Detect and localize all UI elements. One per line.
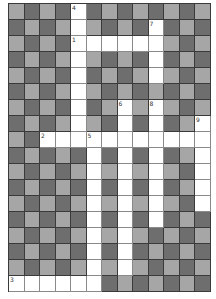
answer-cell[interactable] xyxy=(71,84,87,100)
answer-cell[interactable] xyxy=(71,68,87,84)
answer-cell[interactable] xyxy=(71,20,87,36)
answer-cell[interactable] xyxy=(149,132,165,148)
blocked-cell xyxy=(102,84,118,100)
blocked-cell xyxy=(25,260,41,276)
blocked-cell xyxy=(164,100,180,116)
blocked-cell xyxy=(164,212,180,228)
answer-cell[interactable]: 4 xyxy=(71,4,87,20)
answer-cell[interactable]: 9 xyxy=(195,116,211,132)
blocked-cell xyxy=(9,228,25,244)
blocked-cell xyxy=(133,212,149,228)
answer-cell[interactable]: 3 xyxy=(9,276,25,292)
answer-cell[interactable] xyxy=(25,276,41,292)
blocked-cell xyxy=(133,276,149,292)
answer-cell[interactable] xyxy=(118,228,134,244)
blocked-cell xyxy=(56,4,72,20)
blocked-cell xyxy=(9,100,25,116)
answer-cell[interactable] xyxy=(56,276,72,292)
blocked-cell xyxy=(71,244,87,260)
blocked-cell xyxy=(40,116,56,132)
blocked-cell xyxy=(9,68,25,84)
answer-cell[interactable] xyxy=(195,148,211,164)
blocked-cell xyxy=(25,228,41,244)
answer-cell[interactable] xyxy=(149,148,165,164)
answer-cell[interactable]: 1 xyxy=(71,36,87,52)
answer-cell[interactable] xyxy=(149,212,165,228)
answer-cell[interactable] xyxy=(87,180,103,196)
answer-cell[interactable] xyxy=(118,148,134,164)
answer-cell[interactable]: 6 xyxy=(118,100,134,116)
answer-cell[interactable] xyxy=(149,52,165,68)
blocked-cell xyxy=(180,100,196,116)
answer-cell[interactable] xyxy=(118,164,134,180)
answer-cell[interactable] xyxy=(195,164,211,180)
answer-cell[interactable] xyxy=(71,132,87,148)
answer-cell[interactable] xyxy=(87,260,103,276)
blocked-cell xyxy=(102,68,118,84)
answer-cell[interactable] xyxy=(71,116,87,132)
answer-cell[interactable] xyxy=(164,132,180,148)
answer-cell[interactable] xyxy=(40,276,56,292)
answer-cell[interactable] xyxy=(195,196,211,212)
answer-cell[interactable] xyxy=(87,164,103,180)
answer-cell[interactable]: 2 xyxy=(40,132,56,148)
answer-cell[interactable] xyxy=(149,68,165,84)
blocked-cell xyxy=(133,52,149,68)
blocked-cell xyxy=(87,100,103,116)
blocked-cell xyxy=(87,52,103,68)
answer-cell[interactable] xyxy=(118,212,134,228)
answer-cell[interactable] xyxy=(118,196,134,212)
answer-cell[interactable] xyxy=(87,276,103,292)
answer-cell[interactable] xyxy=(87,228,103,244)
answer-cell[interactable] xyxy=(149,196,165,212)
blocked-cell xyxy=(40,260,56,276)
answer-cell[interactable] xyxy=(195,132,211,148)
blocked-cell xyxy=(149,84,165,100)
blocked-cell xyxy=(71,212,87,228)
answer-cell[interactable] xyxy=(133,132,149,148)
blocked-cell xyxy=(133,260,149,276)
blocked-cell xyxy=(102,180,118,196)
answer-cell[interactable] xyxy=(71,52,87,68)
blocked-cell xyxy=(9,196,25,212)
blocked-cell xyxy=(133,84,149,100)
answer-cell[interactable]: 5 xyxy=(87,132,103,148)
answer-cell[interactable] xyxy=(87,196,103,212)
blocked-cell xyxy=(25,52,41,68)
blocked-cell xyxy=(180,276,196,292)
blocked-cell xyxy=(180,164,196,180)
answer-cell[interactable] xyxy=(118,260,134,276)
blocked-cell xyxy=(87,4,103,20)
answer-cell[interactable] xyxy=(149,164,165,180)
blocked-cell xyxy=(102,244,118,260)
answer-cell[interactable] xyxy=(118,244,134,260)
answer-cell[interactable] xyxy=(149,180,165,196)
blocked-cell xyxy=(195,36,211,52)
answer-cell[interactable] xyxy=(133,36,149,52)
answer-cell[interactable] xyxy=(87,36,103,52)
answer-cell[interactable] xyxy=(149,116,165,132)
clue-number: 6 xyxy=(119,100,123,107)
answer-cell[interactable] xyxy=(102,132,118,148)
answer-cell[interactable] xyxy=(87,244,103,260)
answer-cell[interactable] xyxy=(195,180,211,196)
answer-cell[interactable] xyxy=(71,100,87,116)
answer-cell[interactable] xyxy=(118,116,134,132)
answer-cell[interactable]: 7 xyxy=(149,20,165,36)
blocked-cell xyxy=(102,4,118,20)
blocked-cell xyxy=(195,4,211,20)
answer-cell[interactable] xyxy=(87,148,103,164)
blocked-cell xyxy=(25,116,41,132)
answer-cell[interactable] xyxy=(118,132,134,148)
answer-cell[interactable] xyxy=(102,36,118,52)
answer-cell[interactable] xyxy=(180,132,196,148)
answer-cell[interactable]: 8 xyxy=(149,100,165,116)
answer-cell[interactable] xyxy=(118,36,134,52)
blocked-cell xyxy=(9,36,25,52)
blocked-cell xyxy=(102,212,118,228)
answer-cell[interactable] xyxy=(71,276,87,292)
answer-cell[interactable] xyxy=(149,36,165,52)
answer-cell[interactable] xyxy=(118,180,134,196)
answer-cell[interactable] xyxy=(56,132,72,148)
answer-cell[interactable] xyxy=(87,212,103,228)
